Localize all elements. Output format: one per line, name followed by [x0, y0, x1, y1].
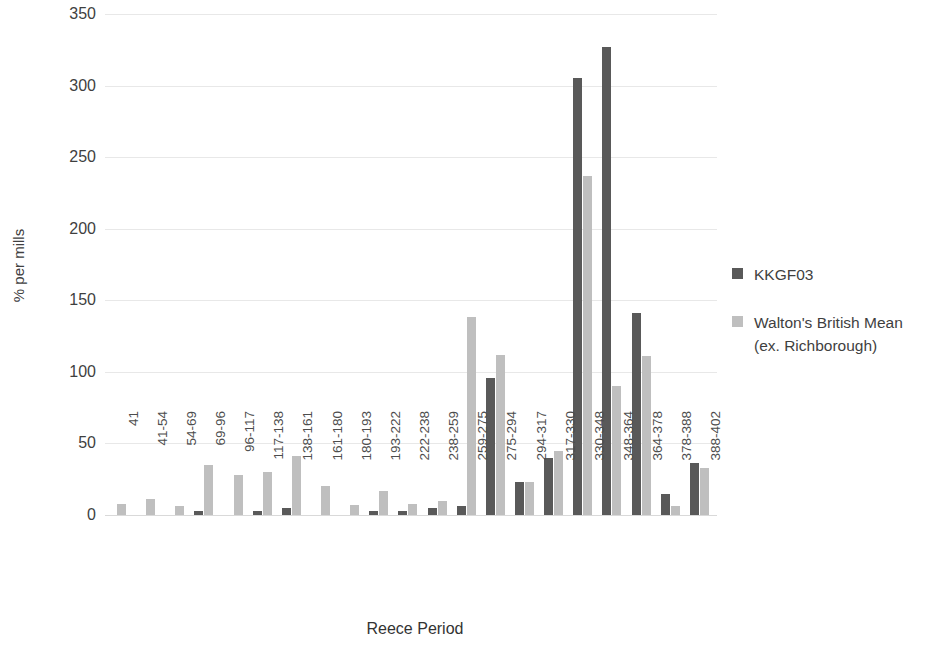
y-axis-tick-250: 250 [36, 148, 96, 166]
bar[interactable] [321, 486, 330, 515]
y-axis-tick-150: 150 [36, 291, 96, 309]
x-axis-tick-label: 275-294 [504, 411, 519, 521]
bar[interactable] [350, 505, 359, 515]
bar[interactable] [379, 491, 388, 515]
bar-chart: % per mills 050100150200250300350 4141-5… [0, 0, 935, 647]
x-axis-tick-label: 117-138 [271, 411, 286, 521]
x-axis-tick-label: 222-238 [417, 411, 432, 521]
bar[interactable] [175, 506, 184, 515]
y-axis-title: % per mills [6, 0, 32, 530]
bar[interactable] [146, 499, 155, 515]
y-axis-tick-0: 0 [36, 506, 96, 524]
x-axis-tick-label: 364-378 [650, 411, 665, 521]
bar[interactable] [554, 451, 563, 515]
x-axis-tick-label: 41-54 [155, 411, 170, 521]
x-axis-tick-label: 96-117 [242, 411, 257, 521]
x-axis-tick-label: 378-388 [679, 411, 694, 521]
x-axis-tick-label: 41 [126, 411, 141, 521]
x-axis-tick-label: 317-330 [563, 411, 578, 521]
y-axis-tick-300: 300 [36, 77, 96, 95]
y-axis-title-label: % per mills [11, 228, 28, 301]
y-axis-tick-100: 100 [36, 363, 96, 381]
legend-item[interactable]: KKGF03 [732, 264, 932, 286]
legend-swatch-icon [732, 268, 743, 279]
x-axis-title: Reece Period [0, 620, 830, 638]
y-axis-tick-350: 350 [36, 5, 96, 23]
x-axis-tick-label: 348-364 [621, 411, 636, 521]
x-axis-tick-label: 193-222 [388, 411, 403, 521]
y-axis-tick-50: 50 [36, 434, 96, 452]
x-axis-tick-label: 54-69 [184, 411, 199, 521]
legend-item[interactable]: Walton's British Mean (ex. Richborough) [732, 312, 932, 357]
x-axis-tick-label: 388-402 [708, 411, 723, 521]
y-axis-tick-200: 200 [36, 220, 96, 238]
x-axis-tick-label: 69-96 [213, 411, 228, 521]
x-axis-tick-label: 294-317 [534, 411, 549, 521]
x-axis-tick-label: 259-275 [475, 411, 490, 521]
bar[interactable] [117, 504, 126, 515]
chart-legend: KKGF03Walton's British Mean (ex. Richbor… [732, 264, 932, 383]
legend-label: KKGF03 [754, 264, 813, 286]
x-axis-tick-label: 330-348 [592, 411, 607, 521]
x-axis-tick-label: 180-193 [359, 411, 374, 521]
x-axis-tick-label: 238-259 [446, 411, 461, 521]
x-axis-tick-label: 161-180 [330, 411, 345, 521]
bar[interactable] [525, 482, 534, 515]
x-axis-tick-label: 138-161 [300, 411, 315, 521]
legend-swatch-icon [732, 316, 743, 327]
legend-label: Walton's British Mean (ex. Richborough) [754, 312, 932, 357]
bar[interactable] [583, 176, 592, 515]
